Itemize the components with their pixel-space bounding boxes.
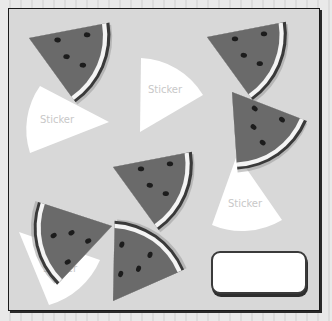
watermelon-slice-middle-left[interactable] bbox=[13, 175, 124, 287]
watermelon-slice-top-right[interactable] bbox=[199, 11, 291, 106]
sticker-label: Sticker bbox=[228, 198, 263, 209]
sticker-top-center[interactable]: Sticker bbox=[140, 58, 203, 132]
answer-input-box[interactable] bbox=[211, 251, 307, 294]
sticker-label: Sticker bbox=[148, 84, 183, 95]
watermelon-slice-top-left[interactable] bbox=[21, 12, 115, 108]
sticker-upper-left[interactable]: Sticker bbox=[26, 86, 109, 153]
sticker-label: Sticker bbox=[40, 114, 75, 125]
